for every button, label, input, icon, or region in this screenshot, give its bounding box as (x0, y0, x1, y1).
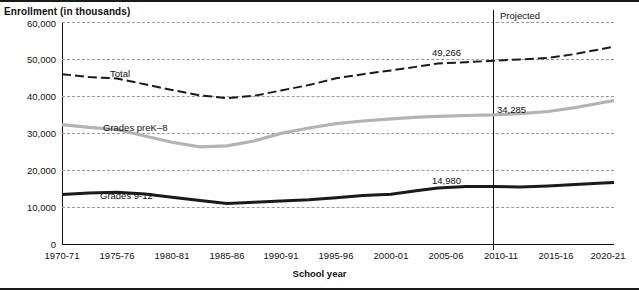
chart-figure: Enrollment (in thousands) 60,000 50,000 … (0, 0, 639, 290)
series-line-total-visible (62, 47, 614, 99)
x-tick-label-1990-91: 1990-91 (264, 250, 299, 261)
series-label-total: Total (110, 68, 130, 79)
value-label-total: 49,266 (432, 47, 461, 58)
value-label-prek8: 34,285 (497, 104, 526, 115)
x-axis-title: School year (0, 268, 639, 279)
x-tick-label-1970-71: 1970-71 (45, 250, 80, 261)
x-tick-label-1995-96: 1995-96 (319, 250, 354, 261)
x-tick-label-1980-81: 1980-81 (155, 250, 190, 261)
series-label-grades912: Grades 9-12 (100, 190, 153, 201)
x-tick-label-1985-86: 1985-86 (210, 250, 245, 261)
chart-lines (0, 0, 639, 290)
x-tick-label-2000-01: 2000-01 (374, 250, 409, 261)
x-tick-label-1975-76: 1975-76 (100, 250, 135, 261)
x-tick-label-2015-16: 2015-16 (539, 250, 574, 261)
x-tick-label-2005-06: 2005-06 (429, 250, 464, 261)
x-tick-label-2010-11: 2010-11 (484, 250, 518, 261)
value-label-grades912: 14,980 (432, 175, 461, 186)
x-tick-label-2020-21: 2020-21 (591, 250, 626, 261)
series-label-prek8: Grades preK–8 (103, 122, 167, 133)
